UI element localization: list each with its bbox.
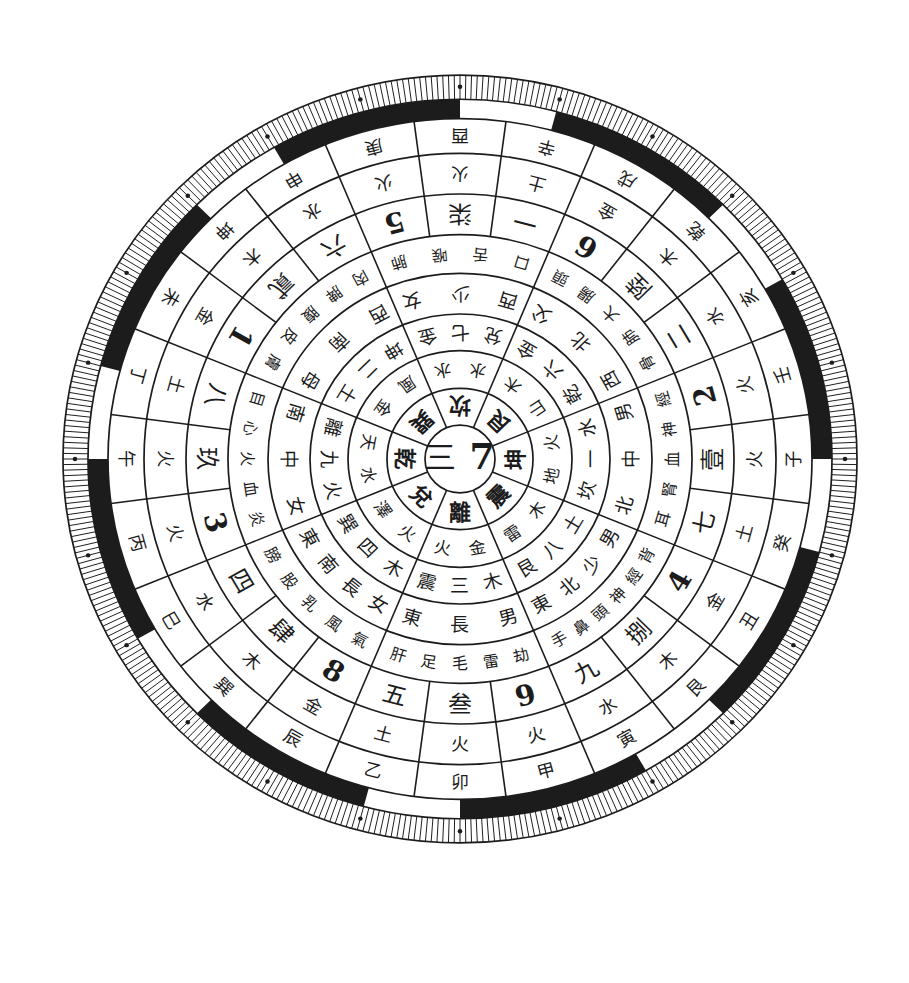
- glyph: 雷: [482, 651, 501, 672]
- mountain-marker-dot: [650, 134, 655, 138]
- glyph: 火: [155, 450, 175, 468]
- mountain-label: 酉: [451, 126, 469, 146]
- mountain-label: 午: [116, 450, 136, 468]
- number-label: 玖: [193, 447, 221, 471]
- glyph: 坤: [502, 448, 527, 470]
- mountain-marker-dot: [124, 643, 129, 647]
- element-label: 火: [155, 450, 175, 468]
- glyph: 離: [449, 500, 471, 525]
- mountain-marker-dot: [830, 553, 835, 557]
- element-label: 火: [451, 164, 469, 184]
- glyph: 舌: [472, 245, 490, 265]
- center-number: 7: [469, 437, 494, 477]
- glyph: 玖: [193, 447, 221, 471]
- glyph: 血: [240, 480, 261, 498]
- mountain-marker-dot: [458, 84, 463, 88]
- glyph: 乾: [392, 448, 417, 470]
- glyph: 天: [357, 433, 380, 453]
- mountain-marker-dot: [358, 97, 363, 101]
- glyph: 腎: [659, 480, 680, 498]
- glyph: 子: [784, 450, 804, 468]
- glyph: 喉: [430, 245, 448, 265]
- mountain-marker-dot: [791, 271, 796, 275]
- mountain-marker-dot: [185, 194, 190, 198]
- trigram-label: 坤: [502, 448, 527, 470]
- mountain-marker-dot: [650, 779, 655, 783]
- mountain-marker-dot: [358, 816, 363, 820]
- glyph: 神: [659, 420, 680, 438]
- center-trigram-numeral: 三: [424, 439, 456, 474]
- glyph: 水: [357, 465, 380, 485]
- glyph: 血: [662, 451, 681, 467]
- trigram-label: 離: [449, 500, 471, 525]
- glyph: 午: [116, 450, 136, 468]
- mountain-marker-dot: [185, 720, 190, 724]
- mountain-label: 子: [784, 450, 804, 468]
- glyph: 三: [450, 575, 469, 596]
- glyph: 中: [620, 450, 641, 469]
- glyph: 毛: [452, 655, 468, 674]
- mountain-marker-dot: [557, 816, 562, 820]
- glyph: 壹: [699, 447, 727, 471]
- glyph: 少: [450, 283, 469, 304]
- mountain-marker-dot: [73, 457, 78, 461]
- element-label: 火: [451, 734, 469, 754]
- mountain-marker-dot: [265, 779, 270, 783]
- mountain-marker-dot: [265, 134, 270, 138]
- number-label: 柒: [448, 201, 472, 229]
- glyph: 卯: [451, 772, 469, 792]
- glyph: 火: [451, 164, 469, 184]
- mountain-marker-dot: [86, 360, 91, 364]
- glyph: 九: [318, 450, 339, 469]
- mountain-marker-dot: [557, 97, 562, 101]
- glyph: 叁: [448, 690, 472, 718]
- mountain-marker-dot: [458, 829, 463, 833]
- number-label: 叁: [448, 690, 472, 718]
- element-label: 火: [745, 450, 765, 468]
- mountain-marker-dot: [843, 457, 848, 461]
- glyph: 火: [540, 433, 563, 453]
- glyph: 水: [467, 359, 488, 381]
- glyph: 一: [580, 450, 601, 469]
- glyph: 坎: [449, 394, 471, 419]
- glyph: 中: [278, 450, 299, 469]
- trigram-label: 乾: [392, 448, 417, 470]
- mountain-label: 卯: [451, 772, 469, 792]
- luopan-compass-diagram: 三 7 坤 艮 坎 巽 乾 兌 離 震 地火 山木 水水 風金 天水 澤火 火金…: [0, 0, 909, 983]
- mountain-marker-dot: [730, 720, 735, 724]
- glyph: 心: [240, 420, 261, 438]
- mountain-marker-dot: [830, 360, 835, 364]
- glyph: 足: [419, 651, 438, 672]
- glyph: 金: [467, 536, 488, 558]
- glyph: 長: [450, 614, 469, 635]
- glyph: 火: [433, 536, 454, 558]
- glyph: 水: [433, 359, 454, 381]
- glyph: 七: [450, 322, 469, 343]
- glyph: 酉: [451, 126, 469, 146]
- mountain-marker-dot: [730, 194, 735, 198]
- glyph: 火: [745, 450, 765, 468]
- glyph: 火: [238, 451, 257, 467]
- mountain-marker-dot: [791, 643, 796, 647]
- glyph: 地: [540, 465, 563, 485]
- trigram-label: 坎: [449, 394, 471, 419]
- glyph: 柒: [448, 201, 472, 229]
- mountain-marker-dot: [86, 553, 91, 557]
- glyph: 火: [451, 734, 469, 754]
- number-label: 壹: [699, 447, 727, 471]
- mountain-marker-dot: [124, 271, 129, 275]
